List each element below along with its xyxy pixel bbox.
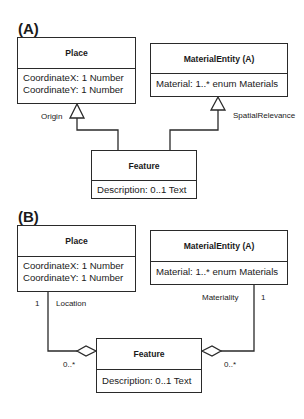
class-name: Place <box>18 226 135 257</box>
class-material-entity-b: MaterialEntity (A) Material: 1..* enum M… <box>150 230 288 285</box>
attribute: Material: 1..* enum Materials <box>156 266 282 278</box>
class-name: Feature <box>97 339 201 370</box>
class-name: Place <box>18 38 135 69</box>
class-attributes: CoordinateX: 1 Number CoordinateY: 1 Num… <box>18 69 135 99</box>
class-attributes: Material: 1..* enum Materials <box>151 262 287 281</box>
relation-label-location: Location <box>56 299 86 308</box>
class-attributes: Material: 1..* enum Materials <box>151 74 287 93</box>
multiplicity-place: 1 <box>35 299 39 308</box>
class-material-entity-a: MaterialEntity (A) Material: 1..* enum M… <box>150 43 288 97</box>
class-place-a: Place CoordinateX: 1 Number CoordinateY:… <box>17 37 136 104</box>
attribute: CoordinateY: 1 Number <box>23 272 130 284</box>
multiplicity-feature-right: 0..* <box>224 360 236 369</box>
class-name: Feature <box>92 151 196 181</box>
relation-label-materiality: Materiality <box>202 293 238 302</box>
panel-a-label: (A) <box>18 20 39 37</box>
class-name: MaterialEntity (A) <box>151 231 287 262</box>
relation-label-origin: Origin <box>41 112 62 121</box>
class-place-b: Place CoordinateX: 1 Number CoordinateY:… <box>17 225 136 292</box>
multiplicity-material-entity: 1 <box>261 293 265 302</box>
panel-b-label: (B) <box>18 208 39 225</box>
aggregation-diamond-icon <box>77 346 96 356</box>
class-attributes: Description: 0..1 Text <box>92 181 196 199</box>
multiplicity-feature-left: 0..* <box>63 360 75 369</box>
generalization-arrow-icon <box>70 104 84 118</box>
class-attributes: CoordinateX: 1 Number CoordinateY: 1 Num… <box>18 257 135 287</box>
class-feature-a: Feature Description: 0..1 Text <box>91 150 197 199</box>
attribute: CoordinateX: 1 Number <box>23 260 130 272</box>
attribute: Description: 0..1 Text <box>97 184 191 196</box>
attribute: Material: 1..* enum Materials <box>156 78 282 90</box>
class-feature-b: Feature Description: 0..1 Text <box>96 338 202 393</box>
class-name: MaterialEntity (A) <box>151 44 287 74</box>
attribute: Description: 0..1 Text <box>102 375 196 387</box>
attribute: CoordinateY: 1 Number <box>23 84 130 96</box>
class-attributes: Description: 0..1 Text <box>97 370 201 390</box>
attribute: CoordinateX: 1 Number <box>23 72 130 84</box>
generalization-arrow-icon <box>211 97 225 110</box>
relation-label-spatial-relevance: SpatialRelevance <box>233 111 295 120</box>
aggregation-diamond-icon <box>202 346 221 356</box>
